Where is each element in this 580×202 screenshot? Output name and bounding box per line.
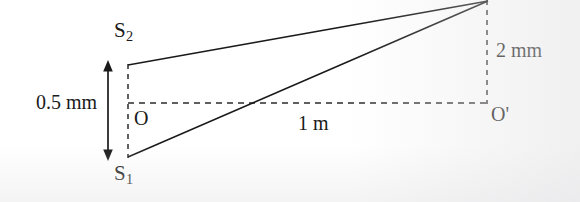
slit-separation-arrow bbox=[103, 60, 113, 161]
label-slit-s1: S1 bbox=[114, 163, 133, 184]
label-screen-center-o-prime: O' bbox=[491, 104, 509, 124]
label-origin-o: O bbox=[134, 108, 148, 128]
ray-from-s2 bbox=[128, 1, 488, 65]
slit-separation-arrowhead-up bbox=[103, 60, 113, 72]
slit-separation-arrowhead-down bbox=[103, 150, 113, 162]
optics-diagram: S2 S1 O O' 0.5 mm 1 m 2 mm bbox=[0, 0, 580, 202]
label-fringe-position: 2 mm bbox=[496, 40, 542, 60]
label-slit-s2: S2 bbox=[114, 20, 133, 41]
label-screen-distance: 1 m bbox=[298, 113, 329, 133]
label-slit-separation: 0.5 mm bbox=[36, 92, 97, 112]
